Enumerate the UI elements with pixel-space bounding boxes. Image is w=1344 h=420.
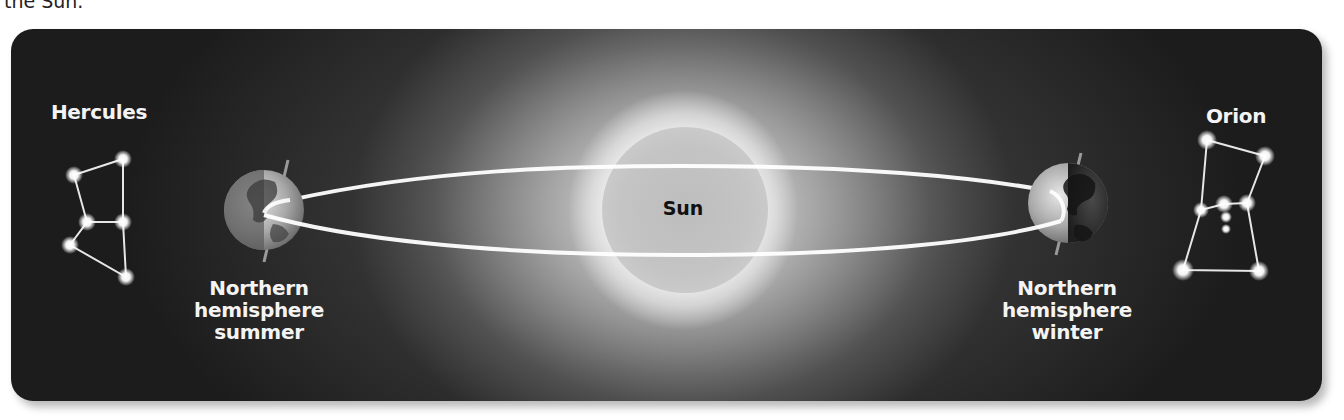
summer-label-line3: summer [189, 321, 329, 343]
winter-label-line1: Northern [997, 277, 1137, 299]
summer-position-label: Northern hemisphere summer [189, 277, 329, 343]
sun-label: Sun [643, 197, 723, 219]
summer-label-line1: Northern [189, 277, 329, 299]
orbit-path-front [264, 215, 1061, 255]
orbit-path-back [290, 166, 1050, 200]
summer-label-line2: hemisphere [189, 299, 329, 321]
caption-fragment: the Sun. [4, 0, 83, 12]
winter-label-line3: winter [997, 321, 1137, 343]
winter-position-label: Northern hemisphere winter [997, 277, 1137, 343]
earth-winter-icon [1028, 153, 1108, 255]
winter-label-line2: hemisphere [997, 299, 1137, 321]
hercules-label: Hercules [49, 101, 149, 123]
orion-label: Orion [1196, 105, 1276, 127]
orbit-diagram-panel: Sun Hercules Orion Northern hemisphere s… [11, 29, 1322, 401]
